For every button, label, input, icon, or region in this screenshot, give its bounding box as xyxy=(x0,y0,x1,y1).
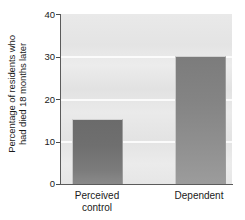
x-axis-line xyxy=(60,184,233,185)
y-axis-line xyxy=(60,14,61,185)
bar-dependent xyxy=(175,56,226,184)
y-tick-label-30: 30 xyxy=(33,52,55,62)
bar-perceived-control xyxy=(72,119,123,184)
y-tick-label-40: 40 xyxy=(33,10,55,20)
y-tick-label-20: 20 xyxy=(33,95,55,105)
x-axis-label-dependent: Dependent xyxy=(159,190,239,202)
x-axis-label-dependent-line-1: Dependent xyxy=(159,190,239,202)
plot-area xyxy=(61,14,232,184)
y-axis-title: Percentage of residents who had died 18 … xyxy=(2,1,32,187)
y-tick-label-10: 10 xyxy=(33,137,55,147)
bar-chart: Percentage of residents who had died 18 … xyxy=(0,0,245,220)
x-axis-label-perceived-control-line-2: control xyxy=(58,202,136,214)
y-tick-label-0: 0 xyxy=(33,179,55,189)
y-axis-tick-labels: 40 30 20 10 0 xyxy=(33,0,55,220)
y-axis-title-line-1: Percentage of residents who xyxy=(6,35,18,153)
x-axis-label-perceived-control-line-1: Perceived xyxy=(58,190,136,202)
y-axis-title-line-2: had died 18 months later xyxy=(17,35,29,153)
x-axis-label-perceived-control: Perceived control xyxy=(58,190,136,214)
